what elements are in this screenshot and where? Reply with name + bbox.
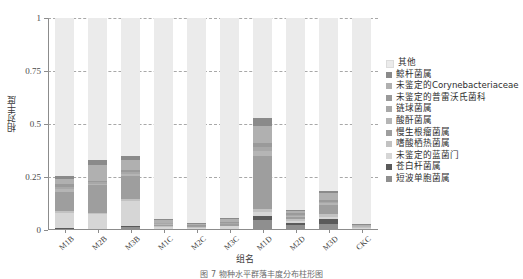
x-tick-label-m1c: M1C [156,234,175,252]
x-tick-1 [98,230,99,233]
y-tick-label-0: 0 [37,226,42,235]
legend-label: 酸酐菌属 [396,115,432,127]
bar-stack [352,18,370,230]
x-tick-2 [131,230,132,233]
bar-column[interactable] [220,18,238,230]
bar-segment[interactable] [121,18,139,156]
x-tick-label-m3b: M3B [123,234,142,252]
x-tick-7 [296,230,297,233]
legend-item[interactable]: 未鉴定的Corynebacteriaceae [386,80,521,92]
bar-segment[interactable] [253,220,271,230]
x-tick-3 [164,230,165,233]
bar-stack [286,18,304,230]
legend-label: 鲸杆菌属 [396,69,432,81]
bar-segment[interactable] [187,18,205,223]
bar-column[interactable] [154,18,172,230]
bar-column[interactable] [319,18,337,230]
bar-stack [88,18,106,230]
figure-caption: 图 7 物种水平群落丰度分布柱形图 [0,268,523,279]
bar-segment[interactable] [319,205,337,213]
legend-item[interactable]: 酸酐菌属 [386,115,521,127]
legend-swatch-icon [386,106,392,112]
bar-stack [319,18,337,230]
bar-segment[interactable] [154,18,172,219]
x-tick-label-m1b: M1B [57,234,76,252]
legend-item[interactable]: 鲸杆菌属 [386,69,521,81]
legend-label: 苍白杆菌属 [396,161,441,173]
x-tick-6 [263,230,264,233]
y-tick-label-2: 0.5 [30,120,41,129]
legend-item[interactable]: 短波单胞菌属 [386,173,521,185]
legend-item[interactable]: 未鉴定的蓝菌门 [386,150,521,162]
x-tick-label-ckc: CKC [354,234,373,252]
bar-stack [121,18,139,230]
legend-swatch-icon [386,153,392,159]
legend-item[interactable]: 苍白杆菌属 [386,161,521,173]
legend-swatch-icon [386,83,392,89]
x-tick-9 [362,230,363,233]
x-tick-label-m1d: M1D [254,234,273,252]
legend-label: 未鉴定的普雷沃氏菌科 [396,92,486,104]
bar-stack [253,18,271,230]
bar-segment[interactable] [88,165,106,181]
bar-segment[interactable] [253,126,271,143]
bar-segment[interactable] [88,214,106,228]
bar-segment[interactable] [253,156,271,209]
y-axis-title: 相对丰度 [6,96,16,132]
x-tick-label-m3c: M3C [222,234,241,252]
bar-stack [154,18,172,230]
bar-stack [220,18,238,230]
legend-swatch-icon [386,130,392,136]
legend-label: 其他 [398,57,416,69]
legend-item[interactable]: 嗜酸栖热菌属 [386,138,521,150]
x-tick-label-m3d: M3D [320,234,339,252]
legend-item[interactable]: 慢生根瘤菌属 [386,127,521,139]
bar-column[interactable] [253,18,271,230]
legend-item[interactable]: 未鉴定的普雷沃氏菌科 [386,92,521,104]
bar-segment[interactable] [352,18,370,225]
bar-segment[interactable] [286,18,304,210]
chart-legend: 其他鲸杆菌属未鉴定的Corynebacteriaceae未鉴定的普雷沃氏菌科链球… [386,57,521,185]
x-tick-4 [197,230,198,233]
y-tick-label-3: 0.75 [25,67,41,76]
x-tick-0 [65,230,66,233]
plot-area: 00.250.50.751 M1BM2BM3BM1CM2CM3CM1DM2DM3… [48,18,378,230]
bar-segment[interactable] [121,176,139,199]
legend-swatch-icon [386,95,392,101]
legend-label: 慢生根瘤菌属 [396,127,450,139]
bar-segment[interactable] [55,213,73,228]
bar-column[interactable] [55,18,73,230]
bar-column[interactable] [352,18,370,230]
bar-segment[interactable] [253,118,271,126]
legend-label: 短波单胞菌属 [396,173,450,185]
bar-segment[interactable] [253,18,271,118]
legend-swatch-icon [386,141,392,147]
x-tick-8 [329,230,330,233]
bar-column[interactable] [286,18,304,230]
x-tick-label-m2c: M2C [189,234,208,252]
legend-swatch-icon [386,72,392,78]
x-axis-title: 组名 [236,252,254,265]
bar-segment[interactable] [121,201,139,226]
bar-segment[interactable] [55,18,73,176]
bar-segment[interactable] [121,160,139,170]
legend-swatch-icon [386,118,392,124]
bar-segment[interactable] [319,18,337,191]
legend-item[interactable]: 链球菌属 [386,103,521,115]
bar-column[interactable] [187,18,205,230]
legend-swatch-icon [386,60,394,68]
chart-figure: 相对丰度 组名 00.250.50.751 M1BM2BM3BM1CM2CM3C… [0,0,523,279]
legend-item[interactable]: 其他 [386,57,521,69]
y-tick-label-4: 1 [37,14,42,23]
bar-segment[interactable] [55,192,73,212]
bar-segment[interactable] [88,185,106,213]
bar-column[interactable] [121,18,139,230]
bar-segment[interactable] [220,18,238,218]
bar-stack [55,18,73,230]
x-tick-5 [230,230,231,233]
bar-column[interactable] [88,18,106,230]
bar-segment[interactable] [88,18,106,160]
y-tick-label-1: 0.25 [25,173,41,182]
x-tick-label-m2d: M2D [287,234,306,252]
legend-label: 嗜酸栖热菌属 [396,138,450,150]
